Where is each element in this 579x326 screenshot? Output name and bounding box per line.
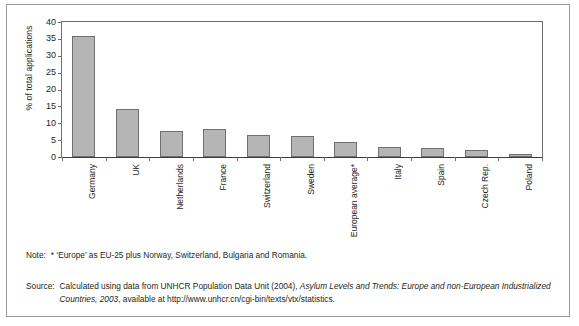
y-axis-tick-label: 30 (16, 51, 62, 60)
bar (378, 147, 401, 157)
x-axis-tick-mark (62, 157, 63, 161)
x-axis-tick-mark (149, 157, 150, 161)
x-axis-tick-mark (324, 157, 325, 161)
bar (509, 154, 532, 157)
bar (72, 36, 95, 157)
x-axis-tick-label: Poland (524, 164, 534, 190)
x-axis-tick-label: Switzerland (262, 164, 272, 208)
y-axis-tick-label: 10 (16, 119, 62, 128)
source-row: Source: Calculated using data from UNHCR… (26, 280, 554, 307)
x-axis-tick-label: Germany (87, 164, 97, 199)
plot-area: 0510152025303540GermanyUKNetherlandsFran… (61, 21, 543, 158)
y-axis-tick-label: 35 (16, 34, 62, 43)
bar (116, 109, 139, 157)
bar (334, 142, 357, 157)
x-axis-tick-label: Sweden (306, 164, 316, 195)
x-axis-tick-mark (455, 157, 456, 161)
note-text: * ‘Europe’ as EU-25 plus Norway, Switzer… (51, 249, 554, 263)
note-row: Note: * ‘Europe’ as EU-25 plus Norway, S… (26, 249, 554, 263)
bar (465, 150, 488, 157)
bar (247, 135, 270, 157)
bar (160, 131, 183, 157)
y-axis-tick-label: 5 (16, 136, 62, 145)
figure-panel: % of total applications 0510152025303540… (6, 4, 570, 317)
x-axis-tick-mark (280, 157, 281, 161)
y-axis-tick-label: 15 (16, 102, 62, 111)
source-text-part2: , available at http://www.unhcr.cn/cgi-b… (118, 294, 335, 304)
bar-chart: % of total applications 0510152025303540… (7, 5, 571, 245)
notes-block: Note: * ‘Europe’ as EU-25 plus Norway, S… (26, 249, 554, 307)
source-text-part1: Calculated using data from UNHCR Populat… (60, 281, 300, 291)
x-axis-tick-label: UK (131, 164, 141, 176)
x-axis-tick-mark (367, 157, 368, 161)
x-axis-tick-label: Netherlands (175, 164, 185, 210)
y-axis-tick-label: 20 (16, 85, 62, 94)
y-axis-tick-label: 25 (16, 68, 62, 77)
bar (291, 136, 314, 157)
x-axis-tick-label: European average* (349, 164, 359, 237)
x-axis-tick-label: Czech Rep. (480, 164, 490, 208)
x-axis-tick-label: Spain (436, 164, 446, 186)
x-axis-tick-label: Italy (393, 164, 403, 180)
note-label: Note: (26, 249, 51, 263)
x-axis-tick-label: France (218, 164, 228, 190)
bar (421, 148, 444, 157)
source-text: Calculated using data from UNHCR Populat… (60, 280, 554, 307)
source-label: Source: (26, 280, 60, 294)
x-axis-tick-mark (193, 157, 194, 161)
bar (203, 129, 226, 157)
x-axis-tick-mark (106, 157, 107, 161)
x-axis-tick-mark (411, 157, 412, 161)
y-axis-tick-label: 40 (16, 18, 62, 27)
x-axis-tick-mark (237, 157, 238, 161)
x-axis-tick-mark (542, 157, 543, 161)
y-axis-tick-label: 0 (16, 153, 62, 162)
x-axis-tick-mark (498, 157, 499, 161)
